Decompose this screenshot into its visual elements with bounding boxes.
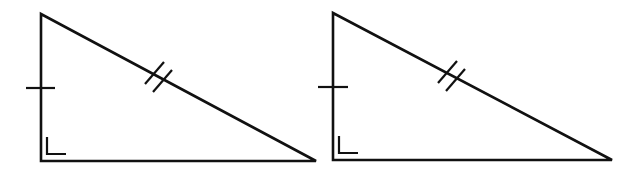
right-triangle-right <box>318 13 612 160</box>
right-angle-mark <box>339 136 358 153</box>
right-triangle-left <box>26 14 316 161</box>
hypotenuse-congruence-tick <box>153 70 172 92</box>
hypotenuse-congruence-tick <box>145 62 164 84</box>
diagram-canvas <box>0 0 632 174</box>
hypotenuse-congruence-tick <box>438 61 457 83</box>
triangle-outline <box>41 14 316 161</box>
triangle-outline <box>333 13 612 160</box>
right-angle-mark <box>47 137 66 154</box>
